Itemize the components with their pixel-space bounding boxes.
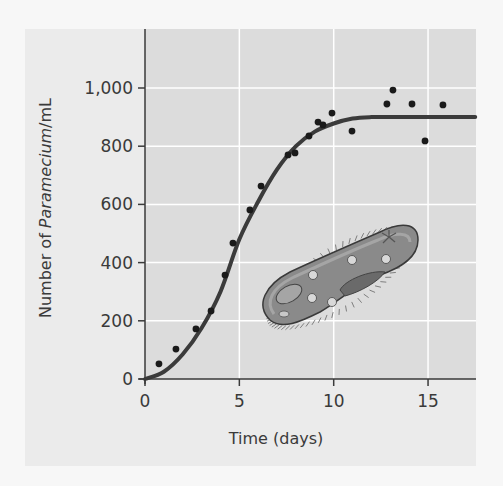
y-axis-title-organism: Paramecium <box>36 128 55 228</box>
y-tick-label: 800 <box>101 136 133 156</box>
y-axis-title: Number of Paramecium/mL <box>36 98 55 318</box>
y-tick-label: 200 <box>101 311 133 331</box>
x-tick-label: 15 <box>417 391 439 411</box>
x-axis-title: Time (days) <box>228 429 324 448</box>
data-point <box>440 101 447 108</box>
data-point <box>306 133 313 140</box>
data-point <box>258 183 265 190</box>
data-point <box>329 110 336 117</box>
y-axis-ticks: 02004006008001,000 <box>84 78 145 389</box>
data-point <box>193 326 200 333</box>
logistic-growth-chart: 02004006008001,000 051015 Time (days) Nu… <box>0 0 503 486</box>
y-axis-title-prefix: Number of <box>36 228 55 318</box>
y-axis-title-unit: /mL <box>36 98 55 128</box>
data-point <box>409 101 416 108</box>
data-point <box>208 308 215 315</box>
data-point <box>156 360 163 367</box>
data-point <box>285 152 292 159</box>
data-point <box>384 101 391 108</box>
y-tick-label: 1,000 <box>84 78 133 98</box>
y-tick-label: 0 <box>122 369 133 389</box>
data-point <box>390 87 397 94</box>
x-tick-label: 5 <box>234 391 245 411</box>
y-tick-label: 600 <box>101 194 133 214</box>
data-point <box>230 240 237 247</box>
data-point <box>320 122 327 129</box>
data-point <box>173 346 180 353</box>
data-point <box>222 272 229 279</box>
x-tick-label: 10 <box>323 391 345 411</box>
data-point <box>247 207 254 214</box>
x-tick-label: 0 <box>140 391 151 411</box>
data-point <box>292 149 299 156</box>
y-tick-label: 400 <box>101 253 133 273</box>
x-axis-ticks: 051015 <box>140 379 439 411</box>
data-point <box>422 138 429 145</box>
data-point <box>349 128 356 135</box>
